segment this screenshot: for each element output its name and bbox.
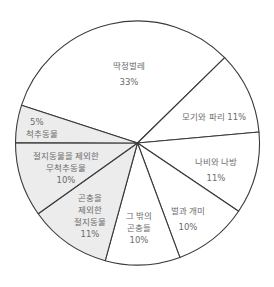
label-non-insect-arthropods: 곤충을 제외한 절지동물 11% bbox=[74, 192, 106, 240]
label-other-insects: 그 밖의 곤충들 10% bbox=[126, 210, 153, 246]
label-other-insects-line2: 곤충들 bbox=[126, 222, 153, 234]
label-vertebrates: 5% 척추동물 bbox=[26, 116, 58, 140]
label-non-arthropod-invertebrates-pct: 10% bbox=[33, 174, 100, 186]
label-vertebrates-name: 척추동물 bbox=[26, 128, 58, 140]
label-bees: 벌과 개미 10% bbox=[171, 205, 206, 233]
label-butterflies-name: 나비와 나방 bbox=[195, 157, 238, 167]
label-beetles-pct: 33% bbox=[113, 76, 145, 88]
label-non-arthropod-invertebrates-line1: 절지동물을 제외한 bbox=[33, 150, 100, 162]
label-beetles: 딱정벌레 33% bbox=[113, 60, 145, 88]
label-other-insects-pct: 10% bbox=[126, 234, 153, 246]
label-non-arthropod-invertebrates: 절지동물을 제외한 무척추동물 10% bbox=[33, 150, 100, 186]
label-vertebrates-pct: 5% bbox=[26, 116, 58, 128]
label-flies: 모기와 파리 11% bbox=[182, 111, 246, 123]
label-non-insect-arthropods-line2: 제외한 bbox=[74, 204, 106, 216]
label-butterflies-pct: 11% bbox=[195, 172, 238, 184]
label-non-insect-arthropods-line1: 곤충을 bbox=[74, 192, 106, 204]
label-non-arthropod-invertebrates-line2: 무척추동물 bbox=[33, 162, 100, 174]
label-non-insect-arthropods-pct: 11% bbox=[74, 228, 106, 240]
label-bees-pct: 10% bbox=[171, 221, 206, 233]
label-non-insect-arthropods-line3: 절지동물 bbox=[74, 216, 106, 228]
label-other-insects-line1: 그 밖의 bbox=[126, 210, 153, 222]
label-butterflies: 나비와 나방 11% bbox=[195, 156, 238, 184]
label-beetles-name: 딱정벌레 bbox=[113, 61, 145, 71]
label-flies-pct: 11% bbox=[227, 112, 246, 122]
label-bees-name: 벌과 개미 bbox=[171, 206, 206, 216]
label-flies-name: 모기와 파리 bbox=[182, 112, 225, 122]
